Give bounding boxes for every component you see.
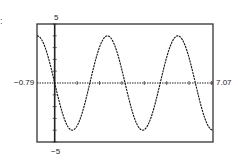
graph-plot: [0, 0, 238, 165]
x-max-label: 7.07: [216, 79, 232, 87]
y-max-label: 5: [54, 14, 58, 22]
x-min-label: −0.79: [14, 79, 34, 87]
y-min-label: −5: [51, 148, 60, 156]
